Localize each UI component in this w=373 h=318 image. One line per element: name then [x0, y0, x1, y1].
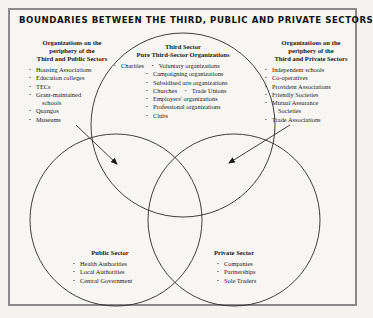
public-sector-list: Health Authorities Local Authorities Cen…: [72, 260, 150, 285]
right-periphery-block: Organizations on the periphery of the Th…: [262, 39, 360, 124]
list-item: Churches: [145, 87, 177, 94]
third-sector-block: Third Sector Pure Third-Sector Organizat…: [113, 43, 253, 120]
third-sector-list: Charities Voluntary organizations Campai…: [113, 62, 253, 120]
list-item: Local Authorities: [72, 268, 150, 276]
private-sector-block: Private Sector Companies Partnerships So…: [214, 249, 274, 285]
public-sector-block: Public Sector Health Authorities Local A…: [70, 249, 150, 285]
list-item: Campaigning organizations: [145, 70, 223, 77]
list-item: Companies: [216, 260, 274, 268]
list-item: Clubs: [145, 112, 168, 119]
list-item: Central Government: [72, 277, 150, 285]
list-item: Trade Associations: [264, 116, 360, 124]
list-item: Professional organizations: [145, 103, 221, 110]
list-item: Employers' organizations: [145, 95, 218, 102]
list-item: Health Authorities: [72, 260, 150, 268]
right-periphery-heading: Organizations on the periphery of the Th…: [262, 39, 360, 63]
public-sector-heading: Public Sector: [70, 249, 150, 257]
list-item-continued: Societies: [264, 107, 360, 115]
right-periphery-list: Independent schools Co-operatives Provid…: [264, 66, 360, 124]
list-item: Independent schools: [264, 66, 360, 74]
list-item: Subsidised arts organizations: [145, 79, 227, 86]
private-sector-list: Companies Partnerships Sole Traders: [216, 260, 274, 285]
list-item: TECs: [28, 83, 122, 91]
list-item: Grant-maintained: [28, 91, 122, 99]
list-item: Friendly Societies: [264, 91, 360, 99]
list-item: Voluntary organizations: [151, 62, 220, 69]
list-item: Co-operatives: [264, 74, 360, 82]
arrow-left-periphery: [76, 125, 117, 164]
list-item: Quangos: [28, 107, 122, 115]
list-item: Education colleges: [28, 74, 122, 82]
list-item: Housing Associations: [28, 66, 122, 74]
private-sector-heading: Private Sector: [214, 249, 274, 257]
list-item: Charities: [113, 62, 144, 69]
list-item: Mutual Assurance: [264, 99, 360, 107]
list-item-continued: schools: [28, 99, 122, 107]
arrow-right-periphery: [229, 125, 290, 163]
list-item: Museums: [28, 116, 122, 124]
list-item: Partnerships: [216, 268, 274, 276]
list-item: Provident Associations: [264, 83, 360, 91]
left-periphery-list: Housing Associations Education colleges …: [28, 66, 122, 124]
list-item: Sole Traders: [216, 277, 274, 285]
list-item: Trade Unions: [184, 87, 227, 94]
left-periphery-heading: Organizations on the periphery of the Th…: [22, 39, 122, 63]
third-sector-heading: Third Sector Pure Third-Sector Organizat…: [113, 43, 253, 59]
left-periphery-block: Organizations on the periphery of the Th…: [22, 39, 122, 124]
